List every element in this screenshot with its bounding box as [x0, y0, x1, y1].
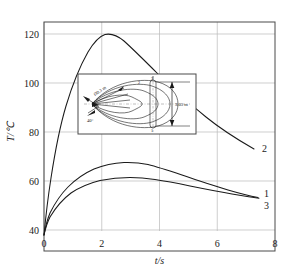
chart-figure: 120 100 80 60 40 0 2 4 6 8 t/s T/℃ 2 1 3 — [0, 0, 291, 279]
xtick-6: 6 — [215, 238, 220, 249]
xtick-2: 2 — [99, 238, 104, 249]
ytick-100: 100 — [24, 78, 39, 89]
inset-point-label-1: 1 — [151, 128, 153, 133]
xtick-0: 0 — [42, 238, 47, 249]
xtick-4: 4 — [157, 238, 162, 249]
series-label-2: 2 — [262, 143, 267, 154]
inset-angle-label: 40° — [87, 118, 94, 123]
ytick-80: 80 — [29, 127, 39, 138]
ytick-60: 60 — [29, 176, 39, 187]
series-label-3: 3 — [264, 200, 269, 211]
y-axis-title: T/℃ — [5, 120, 16, 141]
inset-diagram: 3.05 m Ø0.3 m 40° 3 2 1 — [78, 74, 196, 134]
chart-svg: 120 100 80 60 40 0 2 4 6 8 t/s T/℃ 2 1 3 — [0, 0, 291, 279]
inset-point-label-2: 2 — [138, 80, 140, 85]
xtick-8: 8 — [273, 238, 278, 249]
x-axis-title: t/s — [155, 255, 165, 266]
inset-point-label-3: 3 — [151, 76, 153, 81]
ytick-120: 120 — [24, 29, 39, 40]
series-label-1: 1 — [264, 188, 269, 199]
ytick-40: 40 — [29, 225, 39, 236]
inset-dimension-vertical-label: 3.05 m — [175, 102, 188, 107]
